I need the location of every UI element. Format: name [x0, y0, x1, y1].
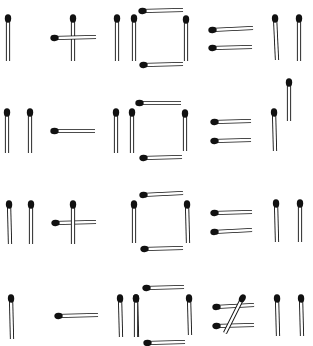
matchstick[interactable] [139, 192, 183, 199]
match-head-icon [297, 199, 303, 207]
matchstick[interactable] [50, 128, 95, 134]
match-head-icon [273, 199, 280, 208]
match-head-icon [27, 108, 33, 116]
matchstick[interactable] [274, 294, 281, 336]
match-head-icon [51, 220, 60, 227]
matchstick[interactable] [139, 155, 182, 162]
matchstick[interactable] [8, 294, 15, 339]
matchstick[interactable] [135, 100, 181, 106]
matchstick[interactable] [54, 313, 98, 320]
match-head-icon [6, 200, 13, 209]
matchstick[interactable] [129, 108, 135, 153]
match-head-icon [183, 15, 189, 23]
equation-row-1 [5, 8, 302, 69]
match-head-icon [208, 27, 217, 34]
match-head-icon [139, 62, 148, 69]
matchstick[interactable] [210, 229, 252, 236]
match-head-icon [271, 108, 278, 117]
match-head-icon [50, 35, 59, 42]
matchstick[interactable] [273, 199, 280, 242]
matchstick[interactable] [27, 108, 33, 153]
matchstick[interactable] [142, 285, 184, 292]
matchstick[interactable] [184, 200, 191, 243]
matchstick[interactable] [212, 304, 254, 311]
match-head-icon [131, 200, 137, 208]
match-head-icon [212, 304, 221, 311]
match-head-icon [138, 8, 147, 15]
matchstick[interactable] [5, 14, 11, 61]
match-head-icon [298, 294, 305, 303]
matchstick[interactable] [208, 45, 252, 52]
match-head-icon [117, 294, 124, 303]
match-head-icon [210, 229, 219, 236]
matchstick[interactable] [6, 200, 13, 244]
match-head-icon [54, 313, 63, 320]
match-head-icon [182, 109, 188, 117]
match-head-icon [8, 294, 15, 303]
matchstick[interactable] [131, 200, 137, 243]
matchstick[interactable] [272, 14, 279, 60]
matchstick[interactable] [28, 200, 34, 244]
matchstick-puzzle [0, 0, 313, 346]
equation-row-4 [8, 285, 305, 346]
matchstick[interactable] [186, 294, 193, 335]
match-head-icon [274, 294, 281, 303]
match-head-icon [50, 128, 58, 134]
match-head-icon [139, 192, 148, 199]
matchstick[interactable] [183, 15, 189, 61]
matchstick[interactable] [143, 340, 185, 346]
match-head-icon [212, 323, 221, 330]
match-head-icon [142, 285, 151, 292]
matchstick[interactable] [131, 14, 137, 61]
matchstick[interactable] [210, 138, 251, 145]
matchstick[interactable] [114, 14, 120, 61]
match-head-icon [129, 108, 135, 116]
matchstick[interactable] [286, 78, 292, 121]
match-head-icon [210, 119, 219, 126]
matchstick[interactable] [117, 294, 124, 337]
match-head-icon [133, 294, 139, 302]
matchstick[interactable] [139, 62, 183, 69]
matchstick[interactable] [271, 108, 278, 151]
matchstick[interactable] [113, 108, 119, 153]
matchstick[interactable] [208, 27, 253, 34]
match-head-icon [143, 340, 152, 346]
matchstick[interactable] [182, 109, 188, 151]
match-head-icon [4, 108, 10, 116]
match-head-icon [210, 138, 219, 145]
match-head-icon [140, 246, 149, 253]
match-head-icon [114, 14, 120, 22]
match-head-icon [296, 14, 302, 22]
matchstick[interactable] [138, 8, 183, 15]
match-head-icon [208, 45, 217, 52]
matchstick[interactable] [298, 294, 305, 336]
match-head-icon [210, 210, 219, 217]
match-head-icon [28, 200, 34, 208]
matchstick[interactable] [212, 323, 254, 330]
match-head-icon [135, 100, 143, 106]
match-head-icon [184, 200, 191, 209]
matchstick[interactable] [210, 210, 252, 217]
equation-row-3 [6, 192, 303, 253]
equation-row-2 [4, 78, 292, 161]
match-head-icon [70, 14, 76, 22]
match-head-icon [272, 14, 279, 23]
matchstick[interactable] [140, 246, 183, 253]
match-head-icon [186, 294, 193, 303]
matchstick[interactable] [296, 14, 302, 61]
match-head-icon [70, 200, 76, 208]
match-head-icon [286, 78, 292, 86]
match-head-icon [131, 14, 137, 22]
matchstick[interactable] [4, 108, 10, 153]
matchstick[interactable] [210, 119, 251, 126]
match-head-icon [5, 14, 11, 22]
match-head-icon [113, 108, 119, 116]
match-head-icon [139, 155, 148, 162]
matchstick[interactable] [297, 199, 303, 242]
